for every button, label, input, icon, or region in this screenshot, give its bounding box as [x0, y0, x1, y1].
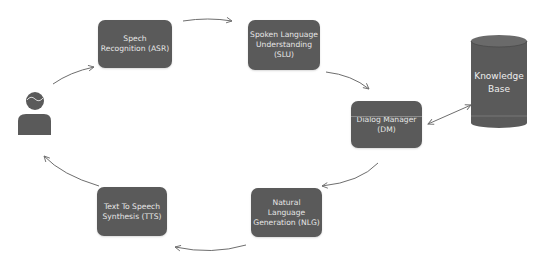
node-slu: Spoken Language Understanding (SLU) — [248, 20, 320, 70]
node-tts-label: Text To Speech Synthesis (TTS) — [103, 202, 162, 222]
node-slu-label: Spoken Language Understanding (SLU) — [250, 30, 318, 60]
node-nlg-label: Natural Language Generation (NLG) — [253, 198, 320, 228]
arrow-tts-to-user — [44, 156, 99, 186]
node-tts: Text To Speech Synthesis (TTS) — [97, 187, 167, 236]
node-nlg: Natural Language Generation (NLG) — [251, 188, 322, 237]
node-dm: Dialog Manager (DM) — [351, 101, 422, 148]
node-asr: Spech Recognition (ASR) — [98, 20, 172, 68]
knowledge-base-label: Knowledge Base — [471, 70, 527, 96]
arrow-user-to-asr — [53, 67, 94, 84]
node-asr-label: Spech Recognition (ASR) — [101, 34, 169, 54]
person-icon — [18, 92, 51, 135]
arrow-nlg-to-tts — [175, 245, 246, 251]
arrow-asr-to-slu — [183, 19, 232, 21]
arrow-dm-kb-bidirectional — [428, 105, 471, 124]
node-dm-label: Dialog Manager (DM) — [357, 115, 417, 135]
arrow-slu-to-dm — [326, 72, 369, 89]
arrow-dm-to-nlg — [322, 163, 378, 186]
node-dm-divider — [351, 116, 422, 117]
